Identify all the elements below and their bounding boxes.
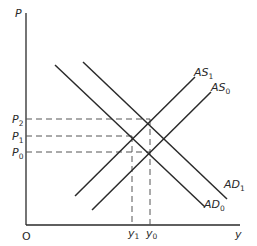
ad-as-diagram: P y O P2 P1 P0 y1 y0 AS1 AS0 AD1 AD0 [0,0,257,246]
p0-label: P0 [12,146,24,161]
p1-label: P1 [12,130,24,145]
as1-label: AS1 [193,66,214,81]
y0-label: y0 [145,227,158,241]
y-axis-label: P [15,7,22,20]
x-axis-label: y [234,228,242,241]
as0-curve [92,92,211,210]
as0-label: AS0 [210,81,231,96]
ad1-curve [83,62,227,199]
as1-curve [75,77,195,196]
ad0-label: AD0 [203,198,225,213]
p2-label: P2 [12,113,24,128]
origin-label: O [22,230,31,243]
ad1-label: AD1 [223,178,245,193]
guide-lines [26,119,150,225]
y1-label: y1 [127,227,140,241]
